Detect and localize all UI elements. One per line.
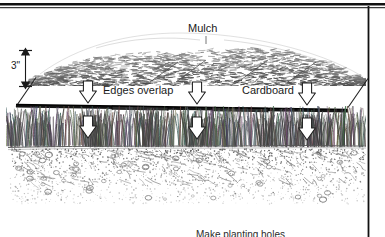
down-arrow-above-cardboard: [80, 81, 97, 103]
diagram-canvas: Mulch Edges overlap Cardboard 3" Make pl…: [0, 0, 385, 237]
label-edges-overlap: Edges overlap: [103, 84, 173, 96]
sheet-mulch-cross-section-illustration: [0, 0, 385, 237]
label-mulch-depth: 3": [11, 60, 20, 71]
down-arrow-above-cardboard: [189, 82, 206, 104]
label-cardboard: Cardboard: [242, 84, 294, 96]
down-arrow-above-cardboard: [299, 83, 316, 105]
label-mulch: Mulch: [188, 22, 217, 34]
mulch-layer: [25, 33, 376, 88]
arrow-pair-2: [189, 82, 206, 139]
label-planting-holes: Make planting holes: [196, 229, 285, 237]
soil-layer: [10, 148, 371, 205]
